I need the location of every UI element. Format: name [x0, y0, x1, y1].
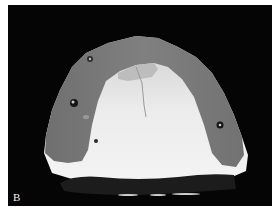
panel-label: B: [13, 191, 20, 203]
dental-cast-illustration: [8, 5, 272, 206]
photo-panel: B: [8, 5, 272, 206]
